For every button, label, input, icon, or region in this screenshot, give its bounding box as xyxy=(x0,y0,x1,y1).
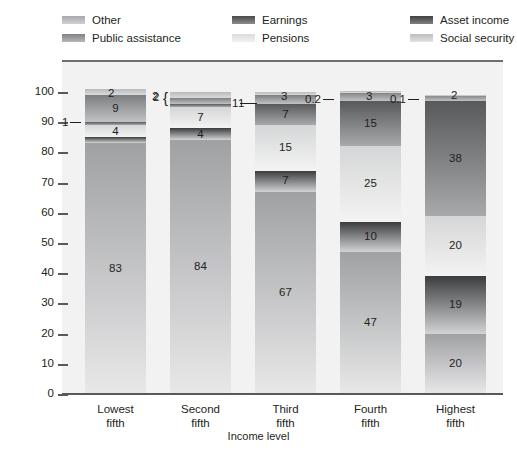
bar-segment-value: 15 xyxy=(364,118,377,130)
callout-b3-public-text: 3 xyxy=(366,90,372,102)
x-axis-category-line1: Second xyxy=(158,402,244,416)
stacked-bar[interactable]: 47102515 xyxy=(340,92,401,394)
bar-segment[interactable] xyxy=(85,89,146,95)
bar-segment[interactable]: 20 xyxy=(425,216,486,276)
x-axis-category-line1: Fourth xyxy=(328,402,414,416)
bar-segment[interactable]: 25 xyxy=(340,146,401,222)
bar-segment[interactable]: 7 xyxy=(255,171,316,192)
y-axis-tick-mark xyxy=(58,92,68,94)
legend-label-pensions: Pensions xyxy=(262,32,309,44)
bar-segment[interactable]: 20 xyxy=(425,334,486,394)
bar-segment[interactable]: 83 xyxy=(85,143,146,394)
legend-swatch-pensions-icon xyxy=(232,34,255,42)
y-axis-tick-label: 50 xyxy=(18,237,54,249)
callout-b2-public: 3 xyxy=(281,91,287,103)
x-axis-category-label: Highestfifth xyxy=(413,402,499,430)
bar-segment[interactable] xyxy=(170,92,231,98)
x-axis-category-line2: fifth xyxy=(158,416,244,430)
legend-swatch-social-security-icon xyxy=(410,34,433,42)
bar-segment-value: 7 xyxy=(282,109,288,121)
y-axis-tick-mark xyxy=(58,183,68,185)
stacked-bar[interactable]: 20192038 xyxy=(425,92,486,394)
bar-segment-value: 19 xyxy=(449,299,462,311)
y-axis-tick-label: 80 xyxy=(18,146,54,158)
bar-segment[interactable] xyxy=(170,98,231,104)
callout-b1-brace-icon: { xyxy=(163,90,168,105)
bar-segment[interactable]: 67 xyxy=(255,192,316,394)
legend-column-3: Asset income Social security xyxy=(410,12,514,48)
y-axis-tick-label: 10 xyxy=(18,358,54,370)
bar-segment[interactable]: 15 xyxy=(255,125,316,170)
bar-segment-value: 83 xyxy=(109,263,122,275)
y-axis-tick-mark xyxy=(58,273,68,275)
legend-label-earnings: Earnings xyxy=(262,14,307,26)
callout-b2-other: 1 xyxy=(232,98,253,110)
x-axis-category-label: Lowestfifth xyxy=(73,402,159,430)
y-axis-tick-mark xyxy=(58,334,68,336)
x-axis-category-line2: fifth xyxy=(413,416,499,430)
stacked-bar[interactable]: 677157 xyxy=(255,92,316,394)
y-axis-tick-label: 70 xyxy=(18,177,54,189)
bar-segment-value: 9 xyxy=(112,103,118,115)
y-axis-tick-label: 30 xyxy=(18,297,54,309)
callout-b3-other-text: 0.2 xyxy=(305,93,321,105)
callout-b2-other-text: 1 xyxy=(232,97,238,109)
legend-swatch-other-icon xyxy=(62,16,85,24)
bar-segment-value: 15 xyxy=(279,142,292,154)
y-axis-tick-mark xyxy=(58,213,68,215)
bar-segment[interactable]: 84 xyxy=(170,140,231,394)
bar-segment-value: 4 xyxy=(112,126,118,138)
callout-b0-other: 2 xyxy=(108,88,114,100)
bar-segment[interactable] xyxy=(85,137,146,143)
callout-b4-public: 2 xyxy=(451,90,457,102)
legend-item-social-security: Social security xyxy=(410,30,514,46)
callout-b1-public-assistance-text: 2 xyxy=(153,91,159,103)
y-axis-tick-mark xyxy=(58,303,68,305)
callout-b4-other-text: 0.1 xyxy=(390,93,406,105)
callout-b2-other-leader-line xyxy=(240,103,251,104)
x-axis-category-line1: Highest xyxy=(413,402,499,416)
bar-segment-value: 20 xyxy=(449,358,462,370)
bar-segment-value: 10 xyxy=(364,231,377,243)
y-axis-tick-label: 0 xyxy=(18,388,54,400)
legend-swatch-public-assistance-icon xyxy=(62,34,85,42)
y-axis-tick-mark xyxy=(58,152,68,154)
bar-segment-value: 84 xyxy=(194,261,207,273)
bar-segment[interactable]: 4 xyxy=(170,128,231,140)
stacked-bar[interactable]: 8447 xyxy=(170,92,231,394)
callout-b1-public-assistance: 2 xyxy=(153,92,159,104)
bar-segment-value: 7 xyxy=(282,175,288,187)
x-axis-category-line2: fifth xyxy=(73,416,159,430)
legend-label-asset-income: Asset income xyxy=(440,14,509,26)
y-axis-tick-label: 40 xyxy=(18,267,54,279)
y-axis-tick-mark xyxy=(58,364,68,366)
bar-segment-value: 67 xyxy=(279,287,292,299)
callout-b3-other: 0.2 xyxy=(305,94,336,106)
bar-segment[interactable]: 38 xyxy=(425,101,486,216)
bar-segment[interactable]: 10 xyxy=(340,222,401,252)
x-axis-category-line1: Third xyxy=(243,402,329,416)
y-axis-tick-label: 60 xyxy=(18,207,54,219)
bar-segment[interactable]: 7 xyxy=(255,104,316,125)
callout-b0-earnings-leader-line xyxy=(70,122,81,123)
bar-segment[interactable]: 4 xyxy=(85,125,146,137)
bar-segment[interactable]: 47 xyxy=(340,252,401,394)
y-axis-tick-label: 20 xyxy=(18,328,54,340)
x-axis-category-line1: Lowest xyxy=(73,402,159,416)
stacked-bar[interactable]: 8349 xyxy=(85,92,146,394)
callout-b3-public: 3 xyxy=(366,91,372,103)
bar-segment[interactable]: 15 xyxy=(340,101,401,146)
callout-b4-public-text: 2 xyxy=(451,89,457,101)
bar-segment-value: 4 xyxy=(197,129,203,141)
legend-item-asset-income: Asset income xyxy=(410,12,514,28)
x-axis-category-label: Fourthfifth xyxy=(328,402,414,430)
legend-swatch-asset-income-icon xyxy=(410,16,433,24)
x-axis-category-line2: fifth xyxy=(243,416,329,430)
bar-segment-value: 25 xyxy=(364,178,377,190)
bar-segment[interactable]: 9 xyxy=(85,95,146,122)
bar-segment[interactable] xyxy=(170,104,231,107)
bar-segment[interactable]: 19 xyxy=(425,276,486,333)
legend-label-social-security: Social security xyxy=(440,32,514,44)
legend-item-public-assistance: Public assistance xyxy=(62,30,181,46)
bar-segment[interactable]: 7 xyxy=(170,107,231,128)
